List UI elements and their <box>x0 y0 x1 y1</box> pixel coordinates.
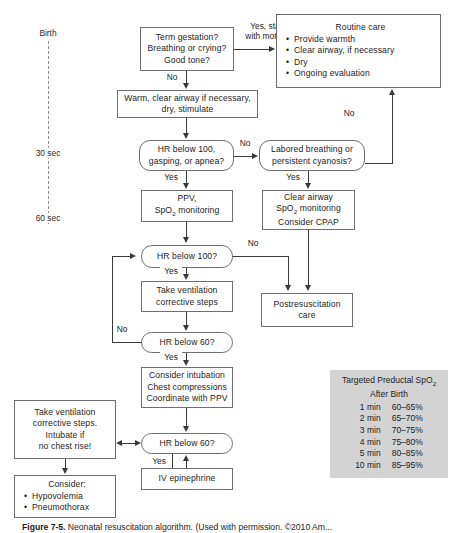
node-consider-intubation[interactable]: Consider intubation Chest compressions C… <box>141 367 233 408</box>
labored-line-2: persistent cyanosis? <box>272 156 352 167</box>
arrow-initial-to-warm <box>183 83 189 89</box>
clearairway-line-1: Clear airway <box>284 192 333 203</box>
node-hr-below-60-second[interactable]: HR below 60? <box>141 433 233 454</box>
consider-causes-item-1: Hypovolemia <box>22 491 83 502</box>
arrow-clearairway-to-post <box>305 285 311 291</box>
edge-label-yes-hr60: Yes <box>160 352 182 362</box>
edge-label-yes-hr60-second: Yes <box>148 456 170 466</box>
edge-hr60-no-h <box>112 342 142 343</box>
spo2-title-text: Targeted Preductal SpO <box>342 375 433 385</box>
hr100-line-1: HR below 100? <box>157 251 217 262</box>
node-ppv-spo2-monitoring[interactable]: PPV, SpO2 monitoring <box>141 190 233 222</box>
node-clear-airway-cpap[interactable]: Clear airway SpO2 monitoring Consider CP… <box>262 190 355 230</box>
targeted-preductal-spo2-table: Targeted Preductal SpO2 After Birth 1 mi… <box>330 370 448 478</box>
spo2-row-range: 85–95% <box>392 460 423 472</box>
ppv-spo-text: SpO <box>155 205 173 215</box>
node-consider-causes[interactable]: Consider: Hypovolemia Pneumothorax <box>14 475 116 518</box>
figure-caption-text: Neonatal resuscitation algorithm. (Used … <box>68 522 332 532</box>
edge-labored-to-routine-v <box>392 95 393 163</box>
spo2-table-subtitle: After Birth <box>338 389 440 401</box>
node-take-ventilation-corrective-steps[interactable]: Take ventilation corrective steps <box>141 281 233 312</box>
initial-assessment-line-2: Breathing or crying? <box>148 43 227 54</box>
table-row: 2 min 65–70% <box>355 413 423 425</box>
arrow-hr100-to-post <box>285 285 291 291</box>
node-warm-clear-airway[interactable]: Warm, clear airway if necessary, dry, st… <box>117 90 258 118</box>
spo2-row-time: 4 min <box>355 437 392 449</box>
table-row: 4 min 75–80% <box>355 437 423 449</box>
initial-assessment-line-3: Good tone? <box>164 55 210 66</box>
ppv-line-1: PPV, <box>177 193 196 204</box>
spo2-row-time: 2 min <box>355 413 392 425</box>
edge-ppv-to-hr100 <box>186 222 187 238</box>
spo2-row-range: 75–80% <box>392 437 423 449</box>
ventintub-line-4: no chest rise! <box>39 441 92 452</box>
clearairway-spo-text: SpO <box>276 203 294 213</box>
node-labored-breathing[interactable]: Labored breathing or persistent cyanosis… <box>259 140 365 171</box>
routine-care-item-3: Dry <box>284 57 308 68</box>
node-hr-below-100-gasping[interactable]: HR below 100, gasping, or apnea? <box>139 140 234 171</box>
table-row: 5 min 80–85% <box>355 448 423 460</box>
routine-care-title: Routine care <box>336 22 386 33</box>
edge-label-no-routine-return: No <box>340 108 358 118</box>
routine-care-item-4: Ongoing evaluation <box>284 68 370 79</box>
table-row: 1 min 60–65% <box>355 402 423 414</box>
edge-label-yes-hr100: Yes <box>160 266 182 276</box>
arrow-takevent-to-hr60 <box>183 325 189 331</box>
spo2-row-time: 1 min <box>355 402 392 414</box>
warm-clear-line-2: dry, stimulate <box>162 104 214 115</box>
arrow-epi-to-hr60second <box>183 455 189 461</box>
edge-clearairway-to-post <box>308 230 309 286</box>
edge-hr60second-to-epi <box>172 454 173 468</box>
arrow-ppv-to-hr100 <box>183 237 189 243</box>
spo2-row-range: 60–65% <box>392 402 423 414</box>
node-take-ventilation-intubate[interactable]: Take ventilation corrective steps. Intub… <box>14 400 116 459</box>
post-line-1: Postresuscitation <box>273 299 340 310</box>
table-row: 3 min 70–75% <box>355 425 423 437</box>
arrow-labored-to-routine <box>389 89 395 95</box>
edge-hr60-no-return-h <box>112 256 130 257</box>
warm-clear-line-1: Warm, clear airway if necessary, <box>124 93 250 104</box>
clearairway-monitoring-text: monitoring <box>297 203 341 213</box>
consider-causes-title: Consider: <box>48 479 86 490</box>
ppv-monitoring-text: monitoring <box>176 205 220 215</box>
spo2-row-time: 3 min <box>355 425 392 437</box>
edge-label-no-hr60: No <box>113 324 131 334</box>
figure-caption: Figure 7-5. Neonatal resuscitation algor… <box>22 522 332 533</box>
intubation-line-1: Consider intubation <box>149 370 225 381</box>
intubation-line-3: Coordinate with PPV <box>146 393 227 404</box>
timeline-label-30sec: 30 sec <box>24 148 72 158</box>
spo2-row-range: 65–70% <box>392 413 423 425</box>
node-iv-epinephrine[interactable]: IV epinephrine <box>141 468 233 490</box>
ventintub-line-3: Intubate if <box>46 430 85 441</box>
consider-causes-item-2: Pneumothorax <box>22 502 89 513</box>
routine-care-item-1: Provide warmth <box>284 34 355 45</box>
node-initial-assessment[interactable]: Term gestation? Breathing or crying? Goo… <box>140 27 234 71</box>
post-line-2: care <box>298 310 315 321</box>
arrow-initial-to-routine <box>269 46 275 52</box>
edge-label-no-hr100-to-post: No <box>244 238 262 248</box>
arrow-hr100-to-takevent <box>183 274 189 280</box>
node-routine-care[interactable]: Routine care Provide warmth Clear airway… <box>276 14 441 88</box>
arrow-to-left-ventilation-box <box>116 440 122 446</box>
arrow-hr100gasping-to-ppv <box>183 183 189 189</box>
spo2-row-range: 80–85% <box>392 448 423 460</box>
ventintub-line-1: Take ventilation <box>35 407 96 418</box>
intubation-line-2: Chest compressions <box>147 382 227 393</box>
arrow-to-hr60-second <box>135 440 141 446</box>
hr100gasping-line-2: gasping, or apnea? <box>149 156 224 167</box>
timeline-label-birth: Birth <box>24 28 72 38</box>
clearairway-line-2: SpO2 monitoring <box>276 203 341 217</box>
arrow-warm-to-hr100gasping <box>183 133 189 139</box>
node-hr-below-100[interactable]: HR below 100? <box>141 245 233 268</box>
spo2-row-time: 10 min <box>355 460 392 472</box>
clearairway-line-3: Consider CPAP <box>278 217 339 228</box>
figure-caption-label: Figure 7-5. <box>22 522 65 532</box>
arrow-intubation-to-hr60second <box>183 426 189 432</box>
spo2-title-subscript: 2 <box>433 380 436 387</box>
node-postresuscitation-care[interactable]: Postresuscitation care <box>261 293 353 327</box>
arrow-labored-to-clearairway <box>305 183 311 189</box>
epi-line-1: IV epinephrine <box>159 473 216 484</box>
ppv-line-2: SpO2 monitoring <box>155 205 220 219</box>
edge-hr100-to-post-h <box>233 256 289 257</box>
node-hr-below-60-first[interactable]: HR below 60? <box>141 332 233 353</box>
